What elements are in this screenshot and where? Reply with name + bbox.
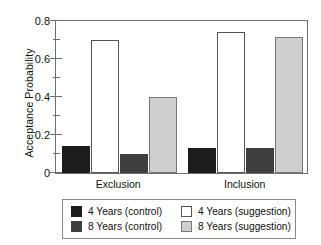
y-axis-tick-label: 0.4	[22, 91, 50, 103]
legend-row: 4 Years (control)4 Years (suggestion)	[71, 204, 289, 219]
legend-label: 4 Years (control)	[88, 206, 162, 217]
y-axis-tick-minor	[53, 77, 60, 78]
y-axis-tick-minor	[53, 115, 60, 116]
y-axis-tick-major	[50, 134, 62, 135]
legend-swatch-white	[181, 206, 192, 217]
x-axis-label-exclusion: Exclusion	[55, 178, 182, 190]
y-axis-tick-label: 0.8	[22, 15, 50, 27]
y-axis-tick-major	[50, 172, 62, 173]
legend-item: 4 Years (suggestion)	[181, 206, 291, 217]
chart-legend: 4 Years (control)4 Years (suggestion)8 Y…	[62, 199, 296, 239]
y-axis-title: Acceptance Probability	[23, 18, 35, 188]
bar-exclusion-black	[62, 146, 90, 173]
bar-inclusion-light	[275, 37, 303, 173]
y-axis-tick-major	[50, 20, 62, 21]
plot-area: 00.20.40.60.8	[55, 20, 308, 174]
y-axis-tick-label: 0.6	[22, 53, 50, 65]
legend-swatch-dark	[71, 221, 82, 232]
y-axis-tick-minor	[53, 39, 60, 40]
legend-item: 8 Years (control)	[71, 221, 181, 232]
bar-inclusion-white	[217, 32, 245, 173]
bar-chart-figure: Acceptance Probability 00.20.40.60.8 Exc…	[0, 0, 321, 245]
legend-label: 8 Years (suggestion)	[198, 221, 291, 232]
legend-row: 8 Years (control)8 Years (suggestion)	[71, 219, 289, 234]
y-axis-tick-label: 0	[22, 167, 50, 179]
bar-exclusion-dark	[120, 154, 148, 173]
legend-swatch-light	[181, 221, 192, 232]
legend-label: 8 Years (control)	[88, 221, 162, 232]
y-axis-tick-major	[50, 96, 62, 97]
legend-label: 4 Years (suggestion)	[198, 206, 291, 217]
bar-exclusion-white	[91, 40, 119, 173]
bar-inclusion-dark	[246, 148, 274, 173]
legend-item: 8 Years (suggestion)	[181, 221, 291, 232]
y-axis-tick-minor	[53, 153, 60, 154]
bar-exclusion-light	[149, 97, 177, 173]
x-axis-label-inclusion: Inclusion	[182, 178, 309, 190]
legend-swatch-black	[71, 206, 82, 217]
legend-item: 4 Years (control)	[71, 206, 181, 217]
bar-inclusion-black	[188, 148, 216, 173]
y-axis-tick-label: 0.2	[22, 129, 50, 141]
y-axis-tick-major	[50, 58, 62, 59]
